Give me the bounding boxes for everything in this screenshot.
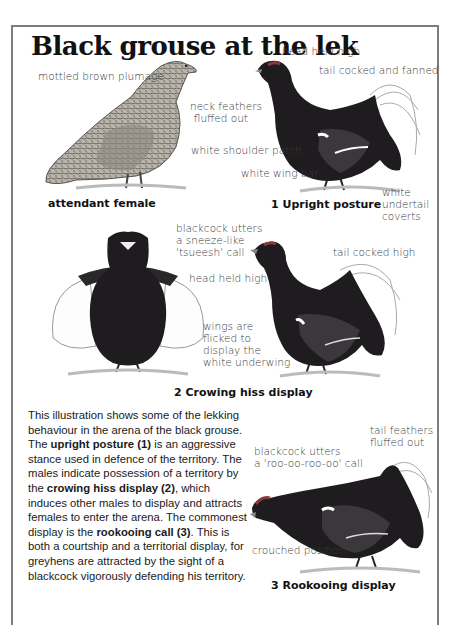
label-wings-flicked: wings are flicked to display the white u… <box>203 320 290 368</box>
label-head-held-high-2: head held high <box>189 272 267 284</box>
label-mottled-plumage: mottled brown plumage <box>38 70 164 82</box>
label-neck-feathers: neck feathers fluffed out <box>190 100 248 124</box>
term-crowing-hiss-display: crowing hiss display (2) <box>47 482 175 494</box>
caption-attendant-female: attendant female <box>48 197 156 210</box>
caption-crowing-hiss-display: 2 Crowing hiss display <box>174 386 313 399</box>
label-roo-oo-call: blackcock utters a 'roo-oo-roo-oo' call <box>254 445 363 469</box>
term-rookooing-call: rookooing call (3) <box>96 526 190 538</box>
label-tail-cocked-high: tail cocked high <box>333 246 415 258</box>
term-upright-posture: upright posture (1) <box>51 438 151 450</box>
caption-rookooing-display: 3 Rookooing display <box>271 579 396 592</box>
label-white-shoulder-patch: white shoulder patch <box>191 144 302 156</box>
label-white-undertail-coverts: white undertail coverts <box>382 186 429 222</box>
label-tsueesh-call: blackcock utters a sneeze-like 'tsueesh'… <box>176 222 262 258</box>
label-crouched-position: crouched position <box>252 544 345 556</box>
description-paragraph: This illustration shows some of the lekk… <box>28 408 248 583</box>
label-tail-feathers-fluffed: tail feathers fluffed out <box>370 424 433 448</box>
label-head-held-high-1: head held high <box>282 45 360 57</box>
label-white-wing-bar: white wing bar <box>241 167 318 179</box>
label-tail-cocked-fanned: tail cocked and fanned <box>319 64 439 76</box>
caption-upright-posture: 1 Upright posture <box>271 198 381 211</box>
